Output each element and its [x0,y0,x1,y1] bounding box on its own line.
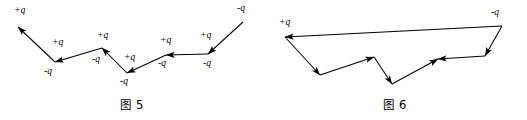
charge-label: +q [124,52,135,62]
figure-6-label-group: +q -q [279,7,499,27]
vector-segment [320,57,374,75]
vector-segment [166,54,208,55]
vector-segment [392,59,438,84]
vector-segment [285,26,502,37]
charge-label: -q [92,54,100,64]
figure-6-panel: +q -q 图 6 [263,0,527,120]
figure-6-caption: 图 6 [263,96,527,112]
figure-5-caption: 图 5 [0,96,264,112]
charge-label: -q [158,58,166,68]
figure-sheet: +q +q -q +q -q +q -q +q -q +q -q -q 图 5 [0,0,527,120]
charge-label: +q [279,17,290,27]
charge-label: -q [491,7,499,17]
charge-label: -q [120,76,128,86]
vector-segment [18,27,55,62]
figure-6-vector-group [285,26,502,84]
vector-segment [438,56,485,59]
charge-label: +q [97,30,108,40]
charge-label: -q [237,3,245,13]
vector-segment [285,37,320,75]
charge-label: +q [200,30,211,40]
figure-6-diagram: +q -q [263,0,527,96]
vector-segment [485,26,502,56]
vector-segment [374,57,392,84]
figure-5-diagram: +q +q -q +q -q +q -q +q -q +q -q -q [0,0,264,96]
charge-label: +q [14,5,25,15]
vector-segment [208,22,243,54]
charge-label: -q [44,66,52,76]
figure-5-panel: +q +q -q +q -q +q -q +q -q +q -q -q 图 5 [0,0,264,120]
figure-5-label-group: +q +q -q +q -q +q -q +q -q +q -q -q [14,3,245,86]
charge-label: +q [160,35,171,45]
charge-label: -q [203,58,211,68]
charge-label: +q [52,37,63,47]
